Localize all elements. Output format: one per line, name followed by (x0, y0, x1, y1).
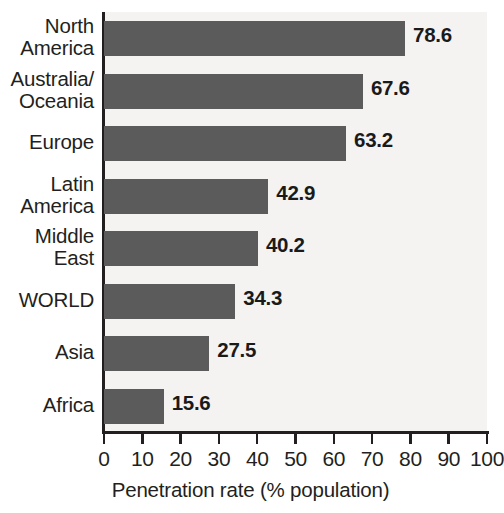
bar-value-label: 78.6 (413, 23, 452, 47)
bar (104, 179, 268, 214)
x-tick-mark (371, 433, 374, 444)
bar-row: Africa15.6 (0, 380, 501, 433)
x-tick-label: 30 (208, 447, 231, 471)
bar-value-label: 27.5 (217, 338, 256, 362)
category-label: North America (0, 15, 94, 59)
bar (104, 126, 346, 161)
x-tick-mark (179, 433, 182, 444)
bar-value-label: 63.2 (354, 128, 393, 152)
x-tick-mark (409, 433, 412, 444)
x-tick-mark (486, 433, 489, 444)
bar (104, 231, 258, 266)
bar-row: Asia27.5 (0, 327, 501, 380)
x-tick-label: 0 (98, 447, 109, 471)
x-tick-label: 40 (246, 447, 269, 471)
bar-row: Middle East40.2 (0, 222, 501, 275)
bar (104, 389, 164, 424)
x-tick-mark (141, 433, 144, 444)
x-tick-mark (333, 433, 336, 444)
bar-row: Australia/ Oceania67.6 (0, 65, 501, 118)
bar-value-label: 42.9 (276, 181, 315, 205)
category-label: Australia/ Oceania (0, 68, 94, 112)
bar-value-label: 34.3 (243, 286, 282, 310)
x-tick-label: 100 (470, 447, 504, 471)
bar (104, 284, 235, 319)
x-tick-label: 90 (437, 447, 460, 471)
x-tick-label: 10 (131, 447, 154, 471)
bar-row: North America78.6 (0, 12, 501, 65)
category-label: Europe (0, 131, 94, 153)
x-tick-label: 70 (361, 447, 384, 471)
category-label: Africa (0, 394, 94, 416)
bar-row: Europe63.2 (0, 117, 501, 170)
category-label: Middle East (0, 225, 94, 269)
bar-value-label: 67.6 (371, 76, 410, 100)
bar-row: WORLD34.3 (0, 275, 501, 328)
x-tick-mark (218, 433, 221, 444)
category-label: Latin America (0, 173, 94, 217)
x-tick-label: 60 (323, 447, 346, 471)
x-tick-mark (256, 433, 259, 444)
bar-row: Latin America42.9 (0, 170, 501, 223)
bar (104, 74, 363, 109)
bar-value-label: 15.6 (172, 391, 211, 415)
x-tick-label: 50 (284, 447, 307, 471)
x-tick-label: 20 (169, 447, 192, 471)
x-tick-mark (294, 433, 297, 444)
bar-value-label: 40.2 (266, 233, 305, 257)
x-tick-mark (103, 433, 106, 444)
category-label: WORLD (0, 289, 94, 311)
x-tick-mark (447, 433, 450, 444)
x-tick-label: 80 (399, 447, 422, 471)
bar (104, 336, 209, 371)
bar (104, 21, 405, 56)
category-label: Asia (0, 341, 94, 363)
x-axis-title: Penetration rate (% population) (0, 478, 501, 502)
